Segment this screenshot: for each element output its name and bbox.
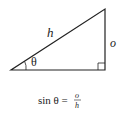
angle-arc — [25, 61, 27, 70]
angle-label: θ — [31, 55, 37, 69]
triangle-diagram: h o θ sin θ = o h — [0, 0, 121, 113]
opposite-label: o — [110, 36, 116, 50]
right-angle-marker — [98, 63, 105, 70]
formula-lhs: sin θ = — [38, 94, 68, 106]
formula-denominator: h — [75, 101, 79, 110]
formula-numerator: o — [75, 91, 79, 100]
hypotenuse-label: h — [47, 25, 54, 40]
right-triangle — [11, 9, 105, 70]
